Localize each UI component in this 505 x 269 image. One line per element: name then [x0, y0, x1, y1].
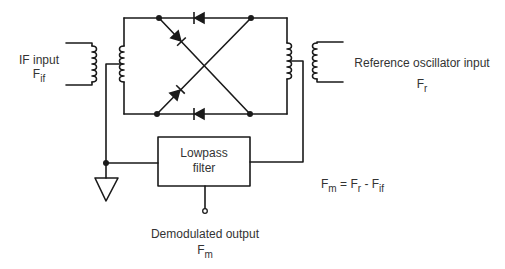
filter-line2: filter	[158, 161, 250, 176]
ground-symbol	[95, 178, 118, 201]
reference-input-symbol: Fr	[347, 77, 497, 92]
filter-line1: Lowpass	[158, 146, 250, 161]
reference-input-title: Reference oscillator input	[347, 56, 497, 70]
if-transformer-secondary	[106, 18, 124, 163]
diode-bottom-icon	[194, 108, 204, 120]
output-terminal	[203, 209, 208, 214]
if-input-title: IF input	[14, 53, 64, 67]
reference-input-label: Reference oscillator input Fr	[347, 56, 497, 92]
if-input-symbol: Fif	[14, 67, 64, 82]
ref-transformer-secondary	[250, 18, 303, 162]
output-symbol: Fm	[145, 242, 265, 259]
if-transformer-primary	[66, 43, 97, 85]
frequency-equation: Fm = Fr - Fif	[321, 177, 384, 192]
lowpass-filter-label: Lowpass filter	[158, 146, 250, 176]
ref-transformer-primary	[313, 42, 344, 82]
diode-top-icon	[194, 12, 204, 24]
if-input-label: IF input Fif	[14, 53, 64, 82]
output-label: Demodulated output Fm	[145, 226, 265, 259]
output-title: Demodulated output	[145, 226, 265, 242]
